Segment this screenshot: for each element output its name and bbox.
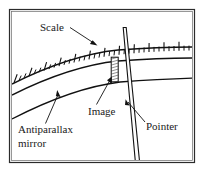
antiparallax-mirror-diagram: Scale Image Pointer Antiparallax mirror: [0, 0, 203, 171]
label-antiparallax-mirror-line2: mirror: [18, 137, 46, 149]
figure-container: Scale Image Pointer Antiparallax mirror: [0, 0, 203, 171]
tick-long: [119, 46, 120, 55]
label-scale: Scale: [40, 21, 64, 33]
tick-short: [114, 51, 115, 56]
tick-short: [109, 51, 110, 56]
label-pointer: Pointer: [146, 120, 178, 132]
label-antiparallax-mirror-line1: Antiparallax: [18, 123, 73, 135]
label-image: Image: [88, 105, 116, 117]
